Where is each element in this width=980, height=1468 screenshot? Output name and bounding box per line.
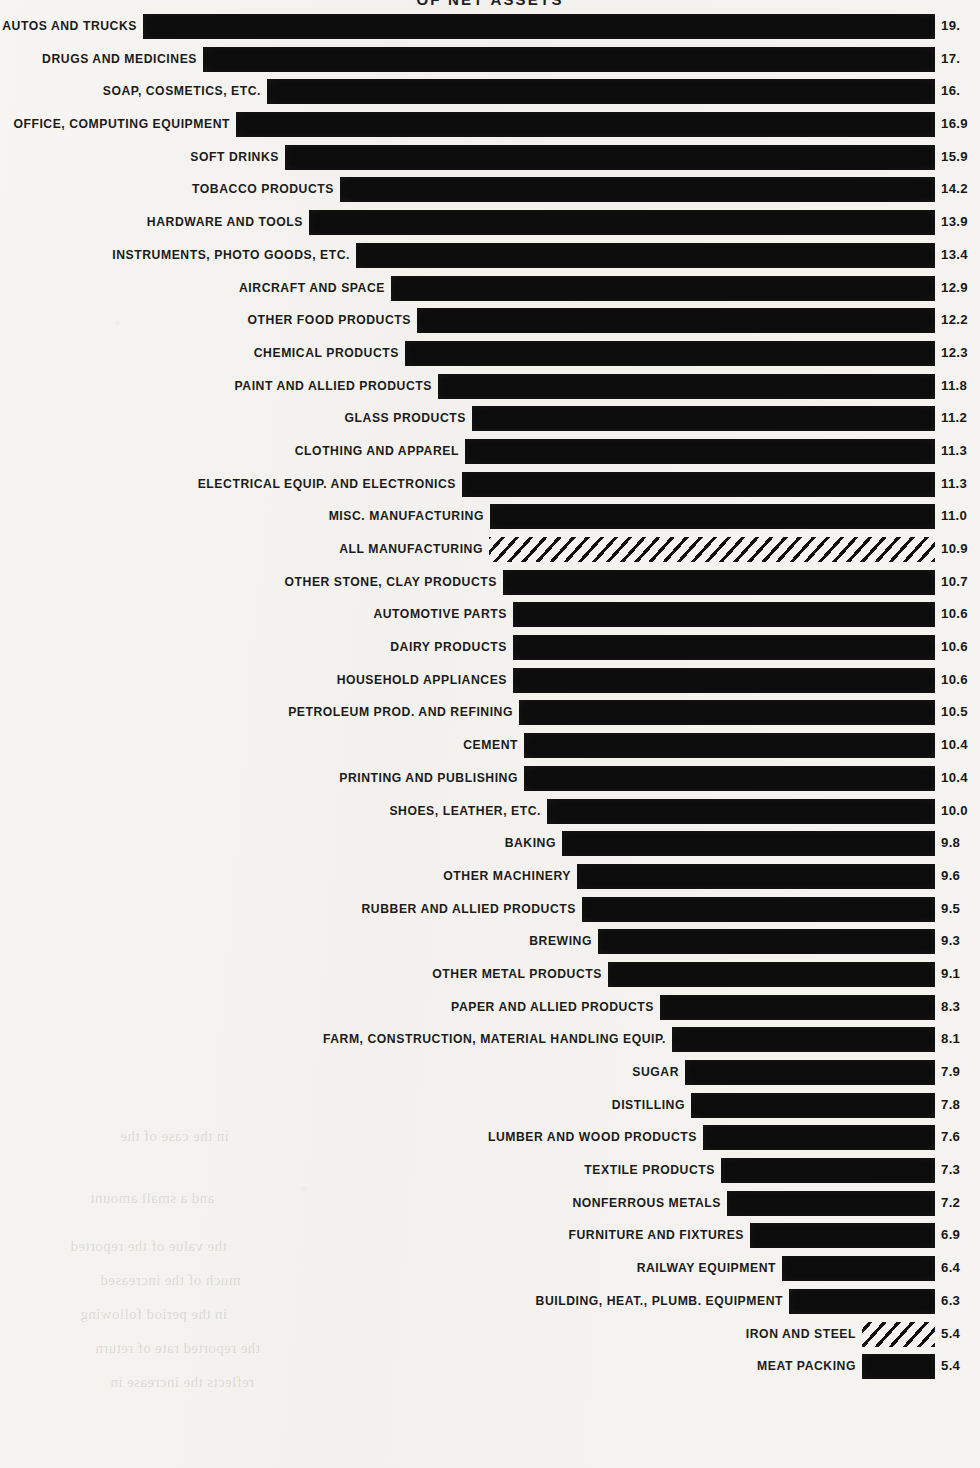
bar-category-label: NONFERROUS METALS (0, 1187, 727, 1220)
bar-value-label: 10.6 (941, 631, 968, 664)
bar-category-label: LUMBER AND WOOD PRODUCTS (0, 1121, 703, 1154)
bar-category-label: FURNITURE AND FIXTURES (0, 1219, 750, 1252)
bar-value-label: 7.8 (941, 1089, 960, 1122)
bar-value-label: 13.4 (941, 239, 968, 272)
chart-row: ELECTRICAL EQUIP. AND ELECTRONICS11.3 (0, 468, 980, 501)
chart-row: PRINTING AND PUBLISHING10.4 (0, 762, 980, 795)
bar-category-label: CLOTHING AND APPAREL (0, 435, 465, 468)
bar-category-label: SUGAR (0, 1056, 685, 1089)
chart-row: DISTILLING7.8 (0, 1089, 980, 1122)
bar-category-label: GLASS PRODUCTS (0, 402, 472, 435)
chart-row: CEMENT10.4 (0, 729, 980, 762)
chart-row: SHOES, LEATHER, ETC.10.0 (0, 795, 980, 828)
bar-category-label: CHEMICAL PRODUCTS (0, 337, 405, 370)
bar-category-label: HOUSEHOLD APPLIANCES (0, 664, 513, 697)
bar (727, 1191, 935, 1216)
bar-value-label: 7.9 (941, 1056, 960, 1089)
bar-category-label: OFFICE, COMPUTING EQUIPMENT (0, 108, 236, 141)
bar-value-label: 7.3 (941, 1154, 960, 1187)
chart-row: HOUSEHOLD APPLIANCES10.6 (0, 664, 980, 697)
bar (267, 79, 935, 104)
bar-category-label: TOBACCO PRODUCTS (0, 173, 340, 206)
bar-category-label: PAINT AND ALLIED PRODUCTS (0, 370, 438, 403)
chart-row: OTHER MACHINERY9.6 (0, 860, 980, 893)
chart-row: OFFICE, COMPUTING EQUIPMENT16.9 (0, 108, 980, 141)
bar (524, 733, 935, 758)
bar (143, 14, 935, 39)
bar (503, 570, 935, 595)
bar-value-label: 11.0 (941, 500, 967, 533)
bar-category-label: OTHER METAL PRODUCTS (0, 958, 608, 991)
bar-category-label: DISTILLING (0, 1089, 691, 1122)
chart-row: RUBBER AND ALLIED PRODUCTS9.5 (0, 893, 980, 926)
bar (513, 635, 935, 660)
chart-row: LUMBER AND WOOD PRODUCTS7.6 (0, 1121, 980, 1154)
bar (703, 1125, 935, 1150)
chart-row: AUTOS AND TRUCKS19. (0, 10, 980, 43)
bar (582, 897, 935, 922)
horizontal-bar-chart: AUTOS AND TRUCKS19.DRUGS AND MEDICINES17… (0, 10, 980, 1468)
bar (660, 995, 935, 1020)
bar-category-label: PAPER AND ALLIED PRODUCTS (0, 991, 660, 1024)
chart-row: INSTRUMENTS, PHOTO GOODS, ETC.13.4 (0, 239, 980, 272)
bar-value-label: 14.2 (941, 173, 968, 206)
bar-value-label: 5.4 (941, 1350, 960, 1383)
bar-value-label: 12.2 (941, 304, 968, 337)
bar-category-label: IRON AND STEEL (0, 1318, 862, 1351)
bar (524, 766, 935, 791)
bar-category-label: SOFT DRINKS (0, 141, 285, 174)
bar-category-label: OTHER FOOD PRODUCTS (0, 304, 417, 337)
chart-row: PAPER AND ALLIED PRODUCTS8.3 (0, 991, 980, 1024)
chart-row: RAILWAY EQUIPMENT6.4 (0, 1252, 980, 1285)
bar-value-label: 11.3 (941, 435, 967, 468)
chart-row: GLASS PRODUCTS11.2 (0, 402, 980, 435)
bar-category-label: PRINTING AND PUBLISHING (0, 762, 524, 795)
bar (691, 1093, 935, 1118)
chart-row: PAINT AND ALLIED PRODUCTS11.8 (0, 370, 980, 403)
bar (672, 1027, 935, 1052)
bar-value-label: 10.5 (941, 696, 968, 729)
chart-row: TEXTILE PRODUCTS7.3 (0, 1154, 980, 1187)
bar-category-label: SOAP, COSMETICS, ETC. (0, 75, 267, 108)
bar-category-label: MISC. MANUFACTURING (0, 500, 490, 533)
bar (598, 929, 935, 954)
bar-value-label: 9.1 (941, 958, 960, 991)
bar (685, 1060, 935, 1085)
bar (782, 1256, 935, 1281)
bar-value-label: 10.6 (941, 664, 968, 697)
chart-row: ALL MANUFACTURING10.9 (0, 533, 980, 566)
bar-value-label: 10.6 (941, 598, 968, 631)
chart-row: MISC. MANUFACTURING11.0 (0, 500, 980, 533)
bar-value-label: 11.8 (941, 370, 967, 403)
bar-category-label: RUBBER AND ALLIED PRODUCTS (0, 893, 582, 926)
chart-row: DRUGS AND MEDICINES17. (0, 43, 980, 76)
bar-value-label: 7.2 (941, 1187, 960, 1220)
bar-value-label: 17. (941, 43, 960, 76)
bar-category-label: CEMENT (0, 729, 524, 762)
bar (391, 276, 935, 301)
bar (513, 602, 935, 627)
chart-row: BAKING9.8 (0, 827, 980, 860)
bar (608, 962, 935, 987)
chart-row: NONFERROUS METALS7.2 (0, 1187, 980, 1220)
bar-category-label: SHOES, LEATHER, ETC. (0, 795, 547, 828)
chart-row: PETROLEUM PROD. AND REFINING10.5 (0, 696, 980, 729)
bar-value-label: 9.3 (941, 925, 960, 958)
bar-category-label: OTHER STONE, CLAY PRODUCTS (0, 566, 503, 599)
bar-value-label: 19. (941, 10, 960, 43)
chart-row: DAIRY PRODUCTS10.6 (0, 631, 980, 664)
bar (721, 1158, 935, 1183)
chart-row: BUILDING, HEAT., PLUMB. EQUIPMENT6.3 (0, 1285, 980, 1318)
bar-category-label: TEXTILE PRODUCTS (0, 1154, 721, 1187)
chart-row: AIRCRAFT AND SPACE12.9 (0, 272, 980, 305)
chart-row: OTHER METAL PRODUCTS9.1 (0, 958, 980, 991)
bar-value-label: 10.7 (941, 566, 968, 599)
bar (789, 1289, 935, 1314)
bar (490, 504, 935, 529)
bar (862, 1322, 935, 1347)
bar-value-label: 10.9 (941, 533, 968, 566)
chart-row: FARM, CONSTRUCTION, MATERIAL HANDLING EQ… (0, 1023, 980, 1056)
chart-row: TOBACCO PRODUCTS14.2 (0, 173, 980, 206)
bar-value-label: 6.3 (941, 1285, 960, 1318)
chart-row: OTHER FOOD PRODUCTS12.2 (0, 304, 980, 337)
